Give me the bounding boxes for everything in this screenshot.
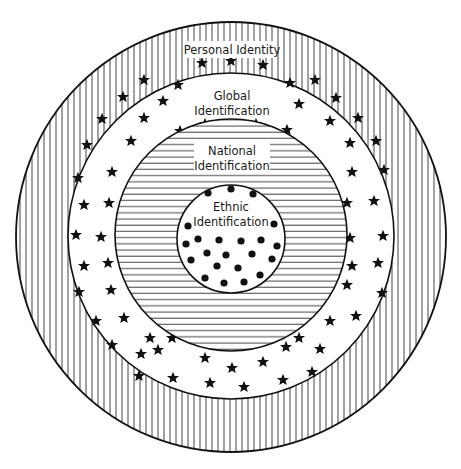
ethnic-label-line2: Identification xyxy=(193,215,268,229)
personal-identity-label: Personal Identity xyxy=(184,43,281,57)
ethnic-label-line1: Ethnic xyxy=(213,200,249,214)
global-label-line2: Identification xyxy=(194,104,269,118)
national-label-line2: Identification xyxy=(194,159,269,173)
identity-diagram: Personal Identity Global Identification … xyxy=(0,0,461,469)
national-label-line1: National xyxy=(208,144,256,158)
global-label-line1: Global xyxy=(214,89,251,103)
